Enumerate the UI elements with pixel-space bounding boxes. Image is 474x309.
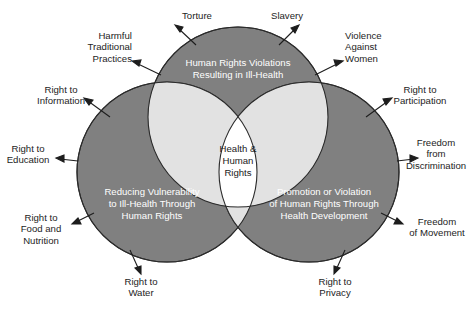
callout-harmful-traditional-practices-line-3: Practices [48, 53, 132, 64]
callout-right-to-participation-line-2: Participation [376, 95, 464, 106]
callout-right-to-water-line-1: Right to [106, 276, 176, 287]
center-label-group: Health & Human Rights [220, 143, 257, 178]
callout-right-to-education-line-2: Education [0, 154, 58, 165]
arrow-slavery [279, 25, 299, 45]
callout-freedom-of-movement-line-2: of Movement [400, 227, 474, 238]
callout-right-to-education: Right to Education [0, 143, 58, 166]
callout-violence-against-women-line-1: Violence [345, 30, 435, 41]
callout-violence-against-women: Violence Against Women [345, 30, 435, 64]
arrow-harmful-traditional-practices [132, 60, 161, 75]
callout-right-to-water: Right to Water [106, 276, 176, 299]
callout-freedom-from-discrimination-line-1: Freedom [397, 137, 474, 148]
callout-torture: Torture [158, 10, 236, 21]
callout-right-to-food-and-nutrition-line-1: Right to [10, 212, 72, 223]
circle-top-label-line-1: Human Rights Violations [186, 57, 291, 68]
center-label-line-2: Human [223, 155, 254, 166]
circle-top-label-line-2: Resulting in Ill-Health [193, 69, 284, 80]
callout-right-to-food-and-nutrition-line-2: Food and [10, 223, 72, 234]
callout-harmful-traditional-practices-line-1: Harmful [48, 30, 132, 41]
callout-harmful-traditional-practices-line-2: Traditional [48, 41, 132, 52]
callout-freedom-from-discrimination-line-2: from [397, 148, 474, 159]
arrow-right-to-education [56, 155, 78, 162]
callout-slavery: Slavery [248, 10, 326, 21]
circle-right-label-line-2: of Human Rights Through [269, 198, 379, 209]
callout-right-to-food-and-nutrition: Right to Food and Nutrition [10, 212, 72, 246]
callout-violence-against-women-line-2: Against [345, 41, 435, 52]
callout-right-to-privacy-line-1: Right to [300, 276, 370, 287]
callout-right-to-water-line-2: Water [106, 287, 176, 298]
circle-right-label-line-1: Promotion or Violation [277, 186, 371, 197]
center-label-line-1: Health & [220, 143, 257, 154]
arrow-violence-against-women [315, 60, 343, 75]
callout-right-to-food-and-nutrition-line-3: Nutrition [10, 235, 72, 246]
circle-left-label-line-3: Human Rights [122, 210, 183, 221]
circle-left-label-line-1: Reducing Vulnerability [104, 186, 199, 197]
callout-slavery-line-1: Slavery [248, 10, 326, 21]
callout-right-to-privacy-line-2: Privacy [300, 287, 370, 298]
callout-freedom-of-movement: Freedom of Movement [400, 216, 474, 239]
callout-violence-against-women-line-3: Women [345, 53, 435, 64]
callout-torture-line-1: Torture [158, 10, 236, 21]
callout-right-to-participation-line-1: Right to [376, 84, 464, 95]
center-label-line-3: Rights [224, 167, 251, 178]
callout-right-to-privacy: Right to Privacy [300, 276, 370, 299]
circle-right-label-line-3: Health Development [281, 210, 368, 221]
callout-right-to-information-line-1: Right to [19, 84, 103, 95]
callout-harmful-traditional-practices: Harmful Traditional Practices [48, 30, 132, 64]
callout-right-to-education-line-1: Right to [0, 143, 58, 154]
callout-freedom-from-discrimination: Freedom from Discrimination [397, 137, 474, 171]
circle-left-label-line-2: to Ill-Health Through [109, 198, 196, 209]
arrow-torture [175, 25, 196, 45]
callout-freedom-of-movement-line-1: Freedom [400, 216, 474, 227]
callout-freedom-from-discrimination-line-3: Discrimination [397, 160, 474, 171]
callout-right-to-information: Right to Information [19, 84, 103, 107]
callout-right-to-information-line-2: Information [19, 95, 103, 106]
venn-diagram-figure: Human Rights Violations Resulting in Ill… [0, 0, 474, 309]
callout-right-to-participation: Right to Participation [376, 84, 464, 107]
